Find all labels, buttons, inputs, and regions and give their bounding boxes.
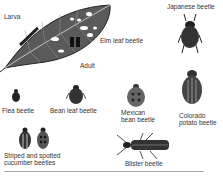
- label-colorado-potato-beetle-line2: potato beetle: [179, 119, 217, 126]
- colorado-potato-beetle-icon: [180, 68, 204, 106]
- label-adult: Adult: [80, 62, 95, 69]
- cucumber-beetles-icon: [16, 126, 52, 150]
- label-elm-leaf-beetle: Elm leaf beetle: [100, 37, 143, 44]
- bottom-rule: [4, 171, 204, 172]
- flea-beetle-icon: [11, 87, 21, 103]
- label-blister-beetle: Blister beetle: [125, 160, 163, 167]
- label-larva: Larva: [4, 13, 20, 20]
- label-bean-leaf-beetle: Bean leaf beetle: [50, 107, 97, 114]
- label-mexican-bean-beetle-line1: Mexican: [121, 109, 145, 116]
- label-cucumber-beetles-line1: Striped and spotted: [4, 152, 60, 159]
- label-cucumber-beetles-line2: cucumber beetles: [4, 159, 55, 166]
- bean-leaf-beetle-icon: [66, 83, 86, 105]
- label-mexican-bean-beetle-line2: bean beetle: [121, 116, 155, 123]
- japanese-beetle-icon: [178, 13, 202, 53]
- mexican-bean-beetle-icon: [125, 82, 147, 108]
- blister-beetle-icon: [115, 131, 175, 161]
- label-flea-beetle: Flea beetle: [2, 107, 34, 114]
- label-japanese-beetle: Japanese beetle: [167, 3, 215, 10]
- label-colorado-potato-beetle-line1: Colorado: [179, 112, 205, 119]
